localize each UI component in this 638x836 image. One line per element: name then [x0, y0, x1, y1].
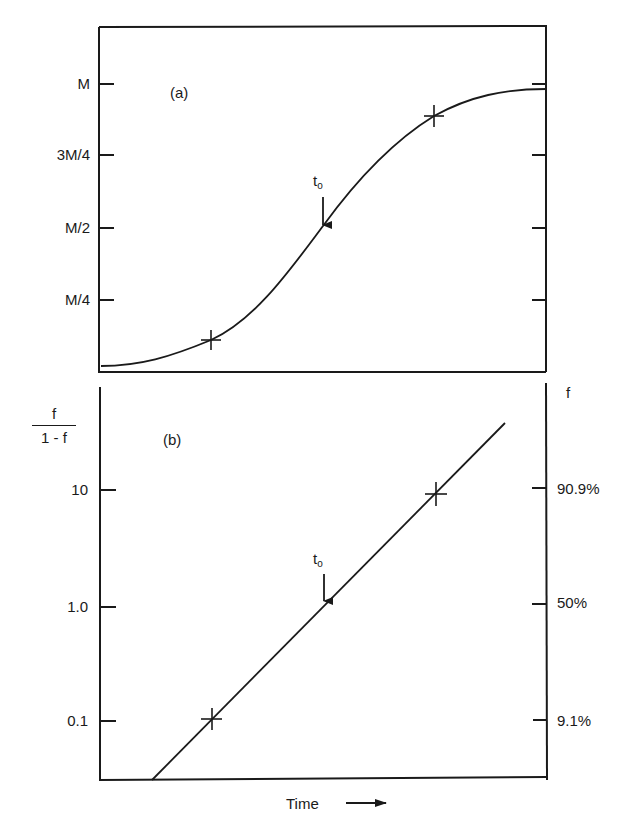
right-tick-label-50: 50% [557, 595, 587, 610]
right-tick-label-90-9: 90.9% [557, 481, 600, 496]
axis-title-denominator: 1 - f [32, 426, 76, 445]
t0-label-b: to [313, 551, 323, 569]
t0-label-a: to [313, 173, 323, 191]
y-tick-label-M2: M/2 [30, 220, 90, 235]
panel-b-left-ticks [100, 490, 116, 721]
figure-canvas [0, 0, 638, 836]
panel-a-right-ticks [532, 84, 546, 300]
right-tick-label-9-1: 9.1% [557, 713, 591, 728]
left-tick-label-1: 1.0 [30, 599, 88, 614]
panel-a-left-ticks [99, 84, 114, 300]
left-tick-label-10: 10 [30, 482, 88, 497]
y-tick-label-M: M [40, 76, 90, 91]
y-tick-label-M4: M/4 [30, 292, 90, 307]
t0-subscript: o [317, 558, 323, 569]
panel-b-label: (b) [163, 432, 181, 447]
left-tick-label-0-1: 0.1 [30, 713, 88, 728]
logistic-curve [101, 89, 546, 366]
x-axis-label: Time [286, 796, 319, 811]
logit-line [152, 423, 505, 780]
axis-title-numerator: f [32, 406, 76, 426]
panel-b-right-ticks [532, 488, 546, 720]
panel-a-label: (a) [170, 85, 188, 100]
left-axis-title: f 1 - f [32, 406, 76, 445]
t0-subscript: o [317, 180, 323, 191]
y-tick-label-3M4: 3M/4 [30, 147, 90, 162]
right-axis-title: f [566, 385, 570, 400]
